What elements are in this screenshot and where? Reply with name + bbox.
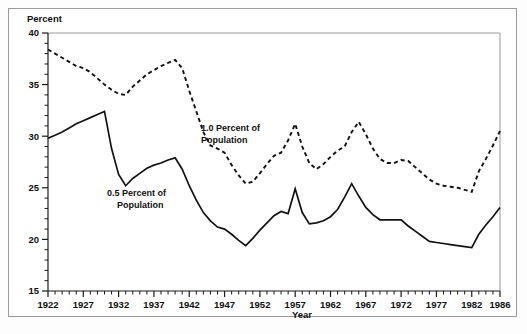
y-tick-label: 30 bbox=[28, 131, 39, 142]
x-tick-label: 1972 bbox=[391, 299, 412, 310]
x-tick-label: 1927 bbox=[73, 299, 94, 310]
y-tick-label: 20 bbox=[28, 234, 39, 245]
series-line-0-5-percent bbox=[48, 111, 500, 247]
series-line-1-0-percent bbox=[48, 50, 500, 192]
x-axis-title: Year bbox=[292, 309, 312, 320]
x-tick-label: 1942 bbox=[179, 299, 200, 310]
line-chart: Percent 152025303540 1922192719321937194… bbox=[0, 0, 527, 334]
dashed-series-label-line2: Population bbox=[201, 135, 248, 145]
x-tick-label: 1982 bbox=[461, 299, 482, 310]
y-tick-label: 15 bbox=[28, 285, 39, 296]
x-tick-label: 1922 bbox=[37, 299, 58, 310]
y-axis-title: Percent bbox=[27, 13, 63, 24]
x-tick-label: 1947 bbox=[214, 299, 235, 310]
x-tick-label: 1932 bbox=[108, 299, 129, 310]
y-tick-label: 35 bbox=[28, 79, 39, 90]
x-tick-label: 1962 bbox=[320, 299, 341, 310]
y-tick-label: 25 bbox=[28, 182, 39, 193]
y-tick-label: 40 bbox=[28, 27, 39, 38]
solid-series-label-line2: Population bbox=[117, 200, 164, 210]
x-tick-label: 1977 bbox=[426, 299, 447, 310]
x-tick-label: 1986 bbox=[489, 299, 510, 310]
solid-series-label-line1: 0.5 Percent of bbox=[107, 188, 167, 198]
x-tick-label: 1952 bbox=[249, 299, 270, 310]
x-tick-label: 1937 bbox=[143, 299, 164, 310]
dashed-series-label-line1: 1.0 Percent of bbox=[201, 123, 261, 133]
x-axis-ticks: 1922192719321937194219471952195719621967… bbox=[37, 291, 510, 310]
y-axis-ticks: 152025303540 bbox=[28, 27, 48, 296]
x-tick-label: 1967 bbox=[355, 299, 376, 310]
figure-page: Percent 152025303540 1922192719321937194… bbox=[0, 0, 527, 334]
chart-container: Percent 152025303540 1922192719321937194… bbox=[0, 0, 527, 334]
